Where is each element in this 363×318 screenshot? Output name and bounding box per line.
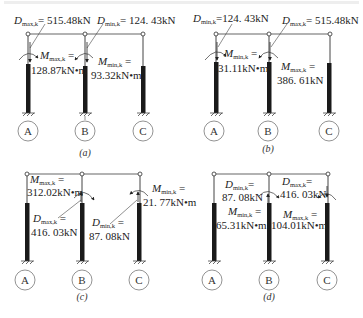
- fixed-support-icon: [22, 113, 150, 116]
- column-a: [25, 203, 30, 261]
- load-value: 87. 08kN: [222, 191, 263, 203]
- column-a: [26, 64, 31, 113]
- panel-caption: (d): [263, 291, 275, 303]
- axis-label: C: [135, 274, 142, 286]
- axis-label: B: [265, 274, 272, 286]
- hinge-icon: [267, 32, 271, 36]
- hinge-icon: [267, 172, 271, 176]
- load-value: 416. 03kN: [31, 226, 78, 238]
- moment-value: 65.31kN•m: [216, 219, 267, 231]
- bent-frame-load-diagrams: A B C (a) Dmax,k= 515.48kN Dmin,k= 124. …: [0, 0, 363, 318]
- hinge-icon: [214, 32, 218, 36]
- column-b: [80, 203, 85, 261]
- hinge-icon: [138, 172, 142, 176]
- moment-value: 312.02kN•m: [27, 186, 84, 198]
- load-label: Dmin,k= 124. 43kN: [96, 14, 175, 27]
- moment-label: Mmax,k =: [29, 173, 64, 186]
- load-label: Dmin,k=124. 43kN: [192, 12, 269, 25]
- moment-value: 104.01kN•m: [271, 219, 328, 231]
- panel-a: A B C (a) Dmax,k= 515.48kN Dmin,k= 124. …: [13, 14, 175, 159]
- load-label: Dmax,k =: [32, 212, 66, 225]
- axis-label: C: [323, 274, 330, 286]
- column-a: [212, 203, 217, 261]
- panel-d: A B C (d) Dmin,k= 87. 08kN Mmin,k = 65.3…: [202, 172, 337, 303]
- clipped-text-strip: [4, 1, 359, 4]
- panel-c: A B C (c) Mmax,k = 312.02kN•m Dmax,k = 4…: [15, 172, 197, 303]
- fixed-support-icon: [210, 113, 336, 116]
- fixed-support-icon: [21, 261, 146, 264]
- axis-label: B: [264, 125, 271, 137]
- hinge-icon: [328, 32, 332, 36]
- moment-label: Mmin,k =: [97, 55, 131, 68]
- moment-value: 31.11kN•m: [218, 62, 269, 74]
- hinge-icon: [80, 172, 84, 176]
- load-label: Dmax,k= 515.48kN: [281, 14, 359, 27]
- hinge-icon: [83, 32, 87, 36]
- panel-caption: (c): [76, 291, 88, 303]
- column-c: [141, 66, 146, 113]
- column-b: [267, 203, 272, 261]
- load-label: Dmin,k =: [91, 216, 124, 229]
- hinge-icon: [212, 172, 216, 176]
- moment-arc-icon: [75, 53, 93, 60]
- moment-value: 93.32kN•m: [91, 69, 142, 81]
- axis-label: B: [78, 274, 85, 286]
- panel-caption: (b): [262, 143, 274, 155]
- column-c: [327, 63, 332, 113]
- fixed-support-icon: [208, 261, 334, 264]
- axis-label: C: [325, 125, 332, 137]
- hinge-icon: [326, 172, 330, 176]
- axis-label: C: [139, 125, 146, 137]
- moment-label: Mmin,k =: [227, 205, 261, 218]
- hinge-icon: [141, 32, 145, 36]
- axis-label: A: [208, 274, 216, 286]
- hinge-icon: [25, 172, 29, 176]
- load-label: Dmax,k=: [281, 175, 312, 188]
- load-value: 87. 08kN: [89, 230, 130, 242]
- moment-label: Mmax,k =: [39, 49, 74, 62]
- moment-label: Mmin,k =: [223, 47, 257, 60]
- moment-value: 128.87kN•m: [31, 64, 88, 76]
- axis-label: A: [210, 125, 218, 137]
- load-value: 416. 03kN: [280, 188, 327, 200]
- moment-label: Mmin,k =: [151, 182, 185, 195]
- panel-b: A B C (b) Dmin,k=124. 43kN Dmax,k= 515.4…: [192, 12, 359, 155]
- hinge-icon: [26, 32, 30, 36]
- axis-label: B: [81, 125, 88, 137]
- moment-value: 21. 77kN•m: [143, 196, 197, 208]
- load-label: Dmax,k= 515.48kN: [13, 14, 91, 27]
- panel-caption: (a): [79, 147, 91, 159]
- column-c: [325, 203, 330, 261]
- axis-label: A: [21, 274, 29, 286]
- load-label: Dmin,k=: [224, 178, 254, 191]
- column-c: [137, 203, 142, 261]
- moment-value: 386. 61kN: [277, 74, 324, 86]
- moment-label: Mmax,k =: [280, 60, 315, 73]
- axis-label: A: [24, 125, 32, 137]
